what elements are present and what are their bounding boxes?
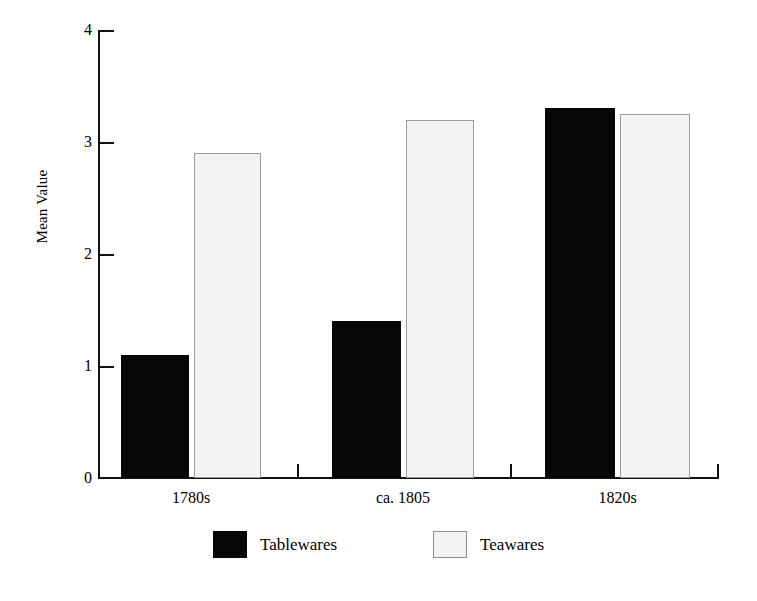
legend-swatch-tablewares-icon [213, 531, 247, 558]
bar-chart: Mean Value 4 3 2 1 0 1780s ca. 1805 1820… [0, 0, 757, 601]
bar-teawares-1780s [194, 153, 261, 478]
plot-area [100, 30, 719, 478]
y-axis-title: Mean Value [34, 142, 51, 272]
bar-tablewares-1780s [121, 355, 189, 478]
legend-label-tablewares: Tablewares [260, 536, 337, 553]
legend-entry-teawares: Teawares [433, 531, 544, 558]
y-tick-label-4: 4 [60, 22, 92, 38]
x-axis-label-ca-1805: ca. 1805 [331, 489, 475, 507]
bar-tablewares-ca-1805 [332, 321, 401, 478]
legend-entry-tablewares: Tablewares [213, 531, 337, 558]
y-tick-label-3: 3 [60, 134, 92, 150]
y-tick-label-2: 2 [60, 246, 92, 262]
legend-swatch-teawares-icon [433, 531, 467, 558]
y-tick-label-1: 1 [60, 358, 92, 374]
legend-label-teawares: Teawares [480, 536, 544, 553]
bar-teawares-ca-1805 [406, 120, 474, 478]
chart-legend: Tablewares Teawares [0, 531, 757, 558]
y-tick-label-0: 0 [60, 470, 92, 486]
bar-tablewares-1820s [545, 108, 615, 478]
x-axis-label-1820s: 1820s [545, 489, 690, 507]
x-axis-label-1780s: 1780s [120, 489, 262, 507]
bar-teawares-1820s [620, 114, 690, 478]
